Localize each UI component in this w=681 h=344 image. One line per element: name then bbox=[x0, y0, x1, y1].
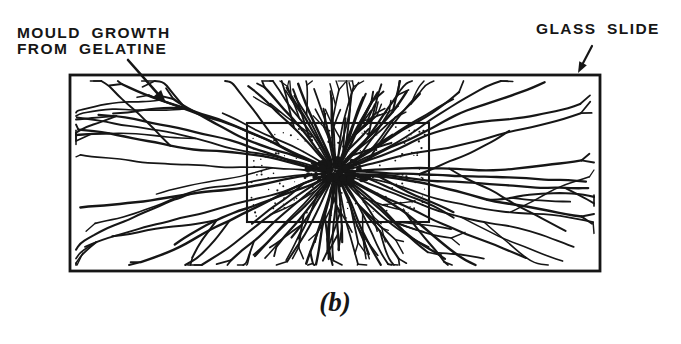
glass-slide-label: GLASS SLIDE bbox=[536, 21, 660, 37]
mould-growth-label-line2: FROM GELATINE bbox=[17, 41, 171, 57]
mould-growth-label: MOULD GROWTH FROM GELATINE bbox=[17, 25, 171, 57]
figure-caption: (b) bbox=[303, 287, 367, 318]
glass-slide-arrow bbox=[578, 46, 592, 73]
mould-growth-label-line1: MOULD GROWTH bbox=[17, 25, 171, 41]
figure-mould-growth-on-glass-slide: MOULD GROWTH FROM GELATINE GLASS SLIDE (… bbox=[0, 0, 681, 344]
